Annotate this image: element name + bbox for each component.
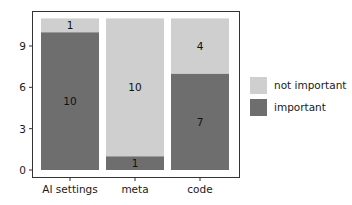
bars-group: 10111074: [41, 18, 229, 170]
y-tick-label: 0: [19, 164, 26, 176]
legend-swatch-important: [250, 99, 267, 116]
legend-item-not-important: not important: [250, 74, 346, 96]
x-axis: AI settingsmetacode: [42, 178, 212, 196]
bar-value-label: 1: [132, 157, 139, 169]
legend-swatch-not-important: [250, 77, 267, 94]
legend: not important important: [250, 74, 346, 118]
bar-value-label: 1: [67, 19, 74, 31]
bar-value-label: 4: [197, 40, 204, 52]
legend-item-important: important: [250, 96, 346, 118]
y-axis: 0369: [19, 40, 32, 176]
legend-label: not important: [274, 79, 346, 91]
y-tick-label: 9: [19, 40, 26, 52]
bar-value-label: 10: [63, 95, 76, 107]
x-tick-label: AI settings: [42, 183, 98, 195]
bar-value-label: 7: [197, 116, 204, 128]
y-tick-label: 6: [19, 81, 26, 93]
x-tick-label: code: [187, 183, 212, 195]
legend-label: important: [274, 101, 326, 113]
y-tick-label: 3: [19, 123, 26, 135]
bar-value-label: 10: [128, 81, 141, 93]
x-tick-label: meta: [121, 183, 148, 195]
